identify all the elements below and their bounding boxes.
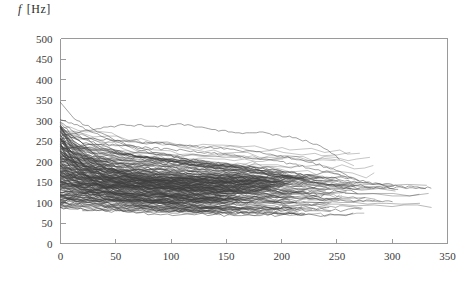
y-tick-label: 50 <box>42 217 54 229</box>
y-axis-symbol: f <box>18 2 22 16</box>
x-tick-label: 150 <box>218 250 235 262</box>
series-line <box>61 131 350 156</box>
y-tick-label: 350 <box>36 94 53 106</box>
chart-svg: 0501001502002503003504004505000501001502… <box>0 0 473 284</box>
y-tick-label: 200 <box>36 156 53 168</box>
y-tick-label: 100 <box>36 197 53 209</box>
y-tick-label: 250 <box>36 135 53 147</box>
x-tick-label: 50 <box>110 250 122 262</box>
y-tick-label: 150 <box>36 176 53 188</box>
figure-container: f[Hz] 0501001502002503003504004505000501… <box>0 0 473 284</box>
y-tick-label: 400 <box>36 74 53 86</box>
y-tick-label: 500 <box>36 33 53 45</box>
axis-tick-labels: 0501001502002503003504004505000501001502… <box>36 33 456 262</box>
x-tick-label: 100 <box>163 250 180 262</box>
y-axis-unit: [Hz] <box>27 2 51 16</box>
x-tick-label: 350 <box>439 250 456 262</box>
y-tick-label: 300 <box>36 115 53 127</box>
x-tick-label: 0 <box>58 250 64 262</box>
x-tick-label: 200 <box>273 250 290 262</box>
y-tick-label: 0 <box>47 238 53 250</box>
x-tick-label: 250 <box>329 250 346 262</box>
series-line <box>314 204 431 207</box>
y-tick-label: 450 <box>36 53 53 65</box>
y-axis-title: f[Hz] <box>18 2 51 17</box>
x-tick-label: 300 <box>384 250 401 262</box>
data-series-group <box>61 102 432 216</box>
